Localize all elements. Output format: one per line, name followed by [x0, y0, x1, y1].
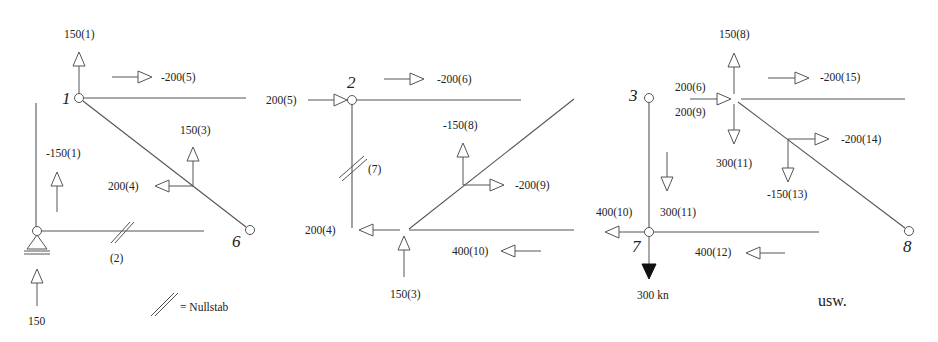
node-label-3: 3: [628, 86, 638, 105]
member-label: (7): [368, 163, 382, 176]
force-label: 150(3): [180, 124, 211, 137]
member-label: (2): [110, 252, 124, 265]
force-label: 400(10): [596, 206, 633, 219]
arrow-left-icon: [155, 180, 169, 192]
continuation-text: usw.: [818, 292, 847, 309]
node-label-6: 6: [232, 232, 241, 251]
legend-label: = Nullstab: [180, 301, 229, 313]
force-label: 400(10): [452, 245, 489, 258]
arrow-right-icon: [717, 93, 731, 105]
node-label-7: 7: [632, 237, 642, 256]
node-7: [645, 228, 654, 237]
arrow-right-icon: [334, 94, 347, 106]
force-label: -150(8): [443, 119, 478, 132]
force-label: 200(4): [305, 224, 336, 237]
truss-node-force-diagram: (2) 1 6 150(1) -200(5) 150(3) 200(4) -15…: [0, 0, 938, 342]
reaction-label: 150: [28, 315, 46, 327]
arrow-left-icon: [359, 224, 373, 236]
arrow-down-filled-icon: [642, 264, 656, 279]
arrow-up-icon: [187, 147, 199, 161]
zero-member-mark: [342, 159, 367, 181]
force-label: 150(1): [64, 28, 95, 41]
force-label: 200(5): [266, 94, 297, 107]
force-label: 200(6): [675, 81, 706, 94]
force-label: 300(11): [660, 206, 696, 219]
force-label: 200(4): [108, 180, 139, 193]
zero-member-mark: [111, 222, 130, 243]
member-diagonal: [409, 99, 574, 229]
force-label: -200(9): [515, 179, 550, 192]
node-3: [645, 94, 654, 103]
arrow-right-icon: [138, 71, 152, 83]
node-label-8: 8: [903, 237, 912, 256]
arrow-up-icon: [31, 269, 43, 283]
force-label: 150(8): [719, 28, 750, 41]
member-diagonal-to-8: [738, 102, 905, 228]
zero-member-legend-mark: [155, 293, 178, 316]
arrow-up-icon: [73, 52, 85, 66]
arrow-right-icon: [795, 72, 809, 84]
force-label: -150(13): [767, 188, 807, 201]
force-label: 200(9): [675, 106, 706, 119]
panel-middle: (7) 2 200(5) -200(6) -150(8) -200(9) 200…: [266, 73, 574, 301]
zero-member-legend-mark: [151, 293, 174, 316]
pin-support-icon: [27, 235, 47, 249]
node-6: [246, 226, 255, 235]
arrow-up-icon: [457, 143, 469, 157]
arrow-right-icon: [410, 73, 424, 85]
node-2: [348, 96, 357, 105]
arrow-down-icon: [782, 168, 794, 182]
node-1: [75, 94, 84, 103]
force-label: -200(15): [820, 71, 860, 84]
force-label: -150(1): [46, 147, 81, 160]
arrow-up-icon: [398, 236, 410, 250]
node-label-1: 1: [62, 89, 71, 108]
arrow-down-icon: [728, 130, 740, 144]
node-8: [905, 227, 914, 236]
arrow-up-icon: [728, 53, 740, 67]
zero-member-mark: [115, 222, 134, 243]
force-label: 150(3): [390, 288, 421, 301]
load-label: 300 kn: [637, 289, 669, 301]
force-label: -200(5): [161, 71, 196, 84]
arrow-left-icon: [746, 247, 760, 259]
arrow-left-icon: [605, 226, 619, 238]
arrow-down-icon: [661, 177, 673, 191]
arrow-up-icon: [51, 172, 63, 186]
arrow-right-icon: [815, 133, 829, 145]
force-label: -200(6): [437, 73, 472, 86]
node-label-2: 2: [347, 73, 356, 92]
force-label: -200(14): [841, 133, 881, 146]
panel-right: 3 300(11) 7 400(10) 300 kn 400(12) 8 200…: [596, 28, 914, 309]
arrow-right-icon: [490, 179, 504, 191]
arrow-left-icon: [501, 245, 515, 257]
force-label: 400(12): [695, 246, 732, 259]
panel-left: (2) 1 6 150(1) -200(5) 150(3) 200(4) -15…: [24, 28, 255, 327]
force-label: 300(11): [716, 157, 752, 170]
member-diagonal-1-6: [83, 101, 246, 227]
